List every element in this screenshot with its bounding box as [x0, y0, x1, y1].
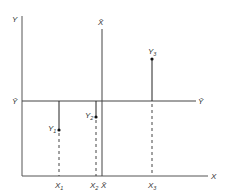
x-mean-label-top: X̄: [97, 18, 104, 27]
deviation-diagram: Y X Ȳ Ȳ X̄ X̄ Y1 Y2 Y3 X1 X2 X3: [0, 0, 227, 193]
tick-label-x1: X1: [54, 181, 63, 191]
y-mean-label-left: Ȳ: [12, 97, 18, 106]
tick-label-x2: X2: [89, 181, 98, 191]
data-point-2: [94, 115, 97, 118]
data-point-1: [57, 128, 60, 131]
y-axis-label: Y: [12, 15, 18, 24]
x-axis-label: X: [210, 172, 217, 181]
tick-label-x3: X3: [147, 181, 157, 191]
x-mean-label-bottom: X̄: [100, 181, 107, 190]
point-label-y3: Y3: [148, 47, 157, 57]
y-mean-label-right: Ȳ: [198, 97, 204, 106]
point-label-y2: Y2: [85, 111, 93, 121]
data-point-3: [150, 57, 153, 60]
point-label-y1: Y1: [48, 124, 56, 134]
